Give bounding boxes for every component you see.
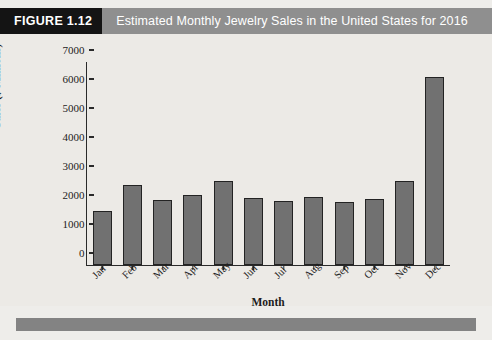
y-axis-tick-label: 3000 (63, 160, 89, 172)
bar-slot (269, 62, 299, 265)
bar-slot (178, 62, 208, 265)
y-axis-tick: 4000 (63, 131, 87, 143)
bar-may (214, 181, 233, 265)
y-axis-tick-label: 1000 (63, 218, 89, 230)
bar-dec (425, 77, 444, 266)
plot-area: 01000200030004000500060007000 JanFebMarA… (86, 62, 450, 266)
y-axis-tick-label: 2000 (63, 189, 89, 201)
y-axis-tick: 5000 (63, 102, 87, 114)
y-axis-tick: 7000 (63, 44, 87, 56)
bar-series (87, 62, 450, 265)
bar-aug (304, 197, 323, 265)
y-axis-tick: 1000 (63, 218, 87, 230)
bar-jun (244, 198, 263, 265)
x-axis-label-jun: Jun (241, 263, 259, 281)
figure-title: Estimated Monthly Jewelry Sales in the U… (102, 8, 467, 34)
bar-slot (420, 62, 450, 265)
bar-feb (123, 185, 142, 265)
y-axis-tick-mark (89, 49, 94, 50)
bar-slot (238, 62, 268, 265)
bar-apr (183, 195, 202, 265)
bar-slot (299, 62, 329, 265)
bar-slot (87, 62, 117, 265)
bar-mar (153, 200, 172, 265)
bar-slot (208, 62, 238, 265)
x-axis-label-jan: Jan (90, 263, 108, 281)
bar-slot (359, 62, 389, 265)
y-axis-title: Sales ($ Millions) (0, 44, 2, 128)
bar-slot (390, 62, 420, 265)
bar-slot (117, 62, 147, 265)
x-axis-title: Month (86, 296, 450, 308)
bar-slot (148, 62, 178, 265)
y-axis-tick-label: 4000 (63, 131, 89, 143)
y-axis-tick: 6000 (63, 73, 87, 85)
figure-footer-band (16, 318, 476, 331)
bar-nov (395, 181, 414, 265)
figure-page: FIGURE 1.12 Estimated Monthly Jewelry Sa… (0, 0, 492, 340)
bar-jan (93, 211, 112, 265)
x-axis-label-jul: Jul (272, 264, 288, 280)
bar-sep (335, 202, 354, 265)
bar-jul (274, 201, 293, 265)
figure-header-band: FIGURE 1.12 Estimated Monthly Jewelry Sa… (0, 8, 492, 34)
y-axis-tick: 2000 (63, 189, 87, 201)
chart-container: Sales ($ Millions) 010002000300040005000… (0, 34, 492, 306)
x-axis-label-oct: Oct (362, 262, 381, 281)
bar-slot (329, 62, 359, 265)
figure-number-tag: FIGURE 1.12 (0, 8, 102, 34)
y-axis-tick-label: 6000 (63, 73, 89, 85)
y-axis-tick: 3000 (63, 160, 87, 172)
bar-oct (365, 199, 384, 265)
y-axis-tick: 0 (79, 247, 87, 259)
y-axis-tick-label: 7000 (63, 44, 89, 56)
y-axis-tick-label: 5000 (63, 102, 89, 114)
